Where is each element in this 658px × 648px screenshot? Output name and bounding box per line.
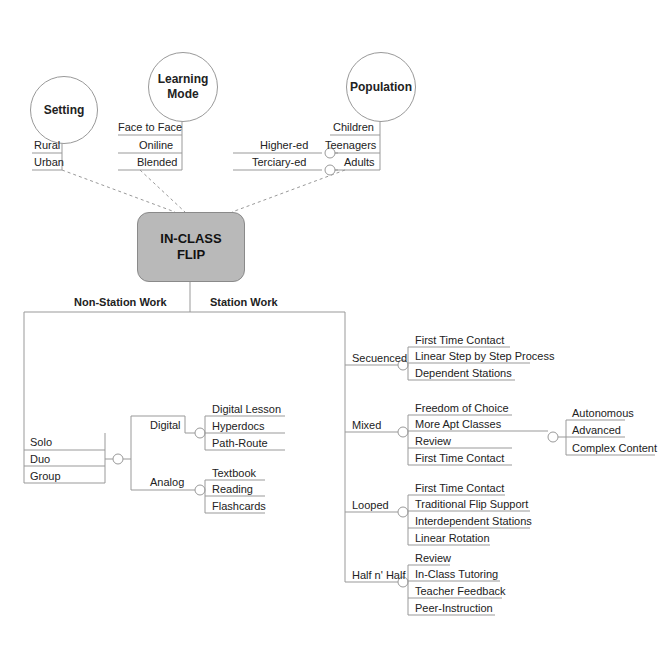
grouping-item: Solo <box>30 436 52 449</box>
half-n-half-item: Peer-Instruction <box>415 602 493 615</box>
digital-item: Path-Route <box>212 437 268 450</box>
half-n-half-item: Teacher Feedback <box>415 585 506 598</box>
population-sub-item: Higher-ed <box>260 139 308 152</box>
looped-item: Interdependent Stations <box>415 515 532 528</box>
population-item: Adults <box>344 156 375 169</box>
population-item: Teenagers <box>325 139 376 152</box>
station-type: Secuenced <box>352 352 407 365</box>
learning-mode-item: Face to Face <box>118 121 182 134</box>
secuenced-item: Linear Step by Step Process <box>415 350 554 363</box>
population-item: Children <box>333 121 374 134</box>
population-label: Population <box>350 80 412 95</box>
mixed-sub-item: Advanced <box>572 424 621 437</box>
grouping-item: Duo <box>30 453 50 466</box>
learning-mode-node: Learning Mode <box>148 52 218 122</box>
in-class-flip-center-node: IN-CLASS FLIP <box>137 212 245 282</box>
mode-analog: Analog <box>150 476 184 489</box>
setting-item: Rural <box>34 139 60 152</box>
setting-node: Setting <box>30 76 98 144</box>
learning-mode-label-1: Learning <box>158 72 209 87</box>
analog-item: Textbook <box>212 467 256 480</box>
secuenced-item: First Time Contact <box>415 334 504 347</box>
analog-item: Flashcards <box>212 500 266 513</box>
station-type: Looped <box>352 499 389 512</box>
station-work-heading: Station Work <box>210 296 278 308</box>
analog-item: Reading <box>212 483 253 496</box>
learning-mode-item: Blended <box>137 156 177 169</box>
connector-lines <box>0 0 658 648</box>
learning-mode-item: Oniline <box>139 139 173 152</box>
learning-mode-label-2: Mode <box>167 87 198 102</box>
station-type: Mixed <box>352 419 381 432</box>
mixed-item: More Apt Classes <box>415 418 501 431</box>
in-class-flip-diagram: Setting Learning Mode Population Rural U… <box>0 0 658 648</box>
station-type: Half n' Half <box>352 569 405 582</box>
mixed-sub-item: Autonomous <box>572 407 634 420</box>
mixed-item: Review <box>415 435 451 448</box>
center-title-2: FLIP <box>177 247 205 263</box>
grouping-item: Group <box>30 470 61 483</box>
looped-item: Linear Rotation <box>415 532 490 545</box>
population-node: Population <box>346 52 416 122</box>
half-n-half-item: Review <box>415 552 451 565</box>
setting-label: Setting <box>44 103 85 118</box>
non-station-work-heading: Non-Station Work <box>74 296 167 308</box>
half-n-half-item: In-Class Tutoring <box>415 568 498 581</box>
setting-item: Urban <box>34 156 64 169</box>
mixed-item: Freedom of Choice <box>415 402 509 415</box>
digital-item: Digital Lesson <box>212 403 281 416</box>
mode-digital: Digital <box>150 419 181 432</box>
digital-item: Hyperdocs <box>212 420 265 433</box>
mixed-item: First Time Contact <box>415 452 504 465</box>
mixed-sub-item: Complex Content <box>572 442 657 455</box>
looped-item: First Time Contact <box>415 482 504 495</box>
population-sub-item: Terciary-ed <box>252 156 306 169</box>
looped-item: Traditional Flip Support <box>415 498 528 511</box>
secuenced-item: Dependent Stations <box>415 367 512 380</box>
center-title-1: IN-CLASS <box>160 231 221 247</box>
